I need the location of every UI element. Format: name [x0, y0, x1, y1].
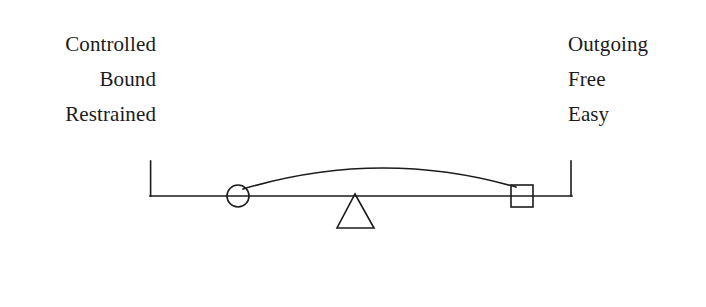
- left-label-group: Controlled Bound Restrained: [0, 27, 156, 132]
- right-label-outgoing: Outgoing: [568, 27, 706, 62]
- balance-scale-graphic: [0, 140, 706, 250]
- right-label-easy: Easy: [568, 97, 706, 132]
- left-label-controlled: Controlled: [0, 27, 156, 62]
- diagram-canvas: Controlled Bound Restrained Outgoing Fre…: [0, 0, 706, 307]
- left-label-bound: Bound: [0, 62, 156, 97]
- right-label-free: Free: [568, 62, 706, 97]
- right-label-group: Outgoing Free Easy: [568, 27, 706, 132]
- arc-connector: [243, 168, 516, 189]
- left-label-restrained: Restrained: [0, 97, 156, 132]
- fulcrum-triangle-icon: [337, 194, 374, 228]
